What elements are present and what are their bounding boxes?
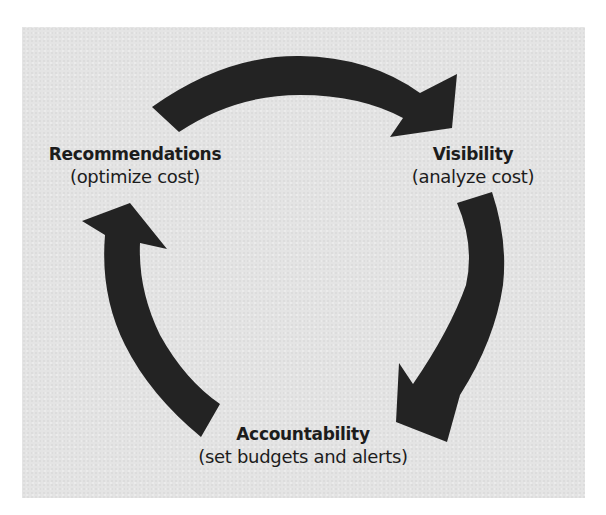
arrow-accountability-to-recommendations xyxy=(82,203,220,437)
node-title: Accountability xyxy=(163,423,443,445)
node-recommendations: Recommendations (optimize cost) xyxy=(32,143,238,189)
arrow-visibility-to-accountability xyxy=(396,192,504,442)
node-subtitle: (optimize cost) xyxy=(32,165,238,189)
arrow-recommendations-to-visibility xyxy=(152,56,457,137)
node-title: Visibility xyxy=(398,143,548,165)
node-title: Recommendations xyxy=(32,143,238,165)
node-subtitle: (set budgets and alerts) xyxy=(163,445,443,469)
node-subtitle: (analyze cost) xyxy=(398,165,548,189)
node-accountability: Accountability (set budgets and alerts) xyxy=(163,423,443,469)
node-visibility: Visibility (analyze cost) xyxy=(398,143,548,189)
